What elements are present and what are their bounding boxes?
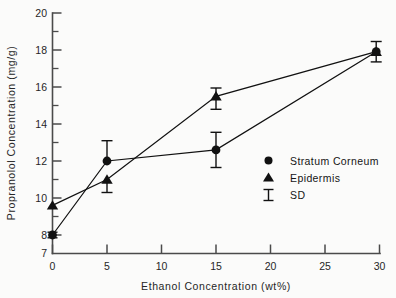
data-point-marker [103, 157, 112, 166]
x-axis-title: Ethanol Concentration (wt%) [141, 280, 291, 292]
legend-circle-icon [265, 157, 273, 165]
stratum-corneum-series-line [53, 52, 377, 235]
x-tick-label: 25 [319, 260, 331, 272]
y-tick-label: 7 [41, 247, 47, 259]
x-tick-labels: 0 5 10 15 20 25 30 [50, 260, 386, 272]
x-tick-label: 30 [374, 260, 386, 272]
epidermis-markers [47, 47, 382, 210]
errorbars-epidermis [102, 88, 222, 193]
y-axis-title: Propranolol Concentration (mg/g) [5, 46, 17, 220]
legend-label-epidermis: Epidermis [290, 172, 340, 184]
x-tick-label: 15 [210, 260, 222, 272]
legend-label-sd: SD [290, 189, 305, 201]
legend-triangle-icon [263, 173, 274, 182]
x-tick-label: 0 [50, 260, 56, 272]
stratum-corneum-markers [48, 47, 381, 239]
x-tick-label: 10 [156, 260, 168, 272]
legend-errorbar-icon [264, 190, 274, 201]
x-tick-label: 20 [265, 260, 277, 272]
legend-label-stratum-corneum: Stratum Corneum [290, 155, 379, 167]
x-axis-ticks [53, 245, 380, 254]
y-tick-label: 12 [35, 155, 47, 167]
chart-legend: Stratum Corneum Epidermis SD [263, 155, 379, 201]
y-tick-label: 10 [35, 192, 47, 204]
data-point-marker [372, 47, 381, 56]
plot-content [47, 42, 382, 240]
y-tick-label: 8 [41, 229, 47, 241]
propranolol-concentration-line-chart: 20 18 16 14 12 10 8 7 0 5 10 15 20 25 30… [0, 0, 396, 298]
data-point-marker [212, 146, 221, 155]
chart-figure: 20 18 16 14 12 10 8 7 0 5 10 15 20 25 30… [0, 0, 396, 298]
y-tick-labels: 20 18 16 14 12 10 8 7 [35, 7, 47, 259]
data-point-marker [48, 231, 57, 240]
y-tick-label: 16 [35, 81, 47, 93]
x-tick-label: 5 [104, 260, 110, 272]
data-point-marker [47, 200, 58, 209]
y-tick-label: 20 [35, 7, 47, 19]
y-tick-label: 14 [35, 118, 47, 130]
y-tick-label: 18 [35, 44, 47, 56]
errorbars-stratum-corneum [48, 132, 222, 238]
